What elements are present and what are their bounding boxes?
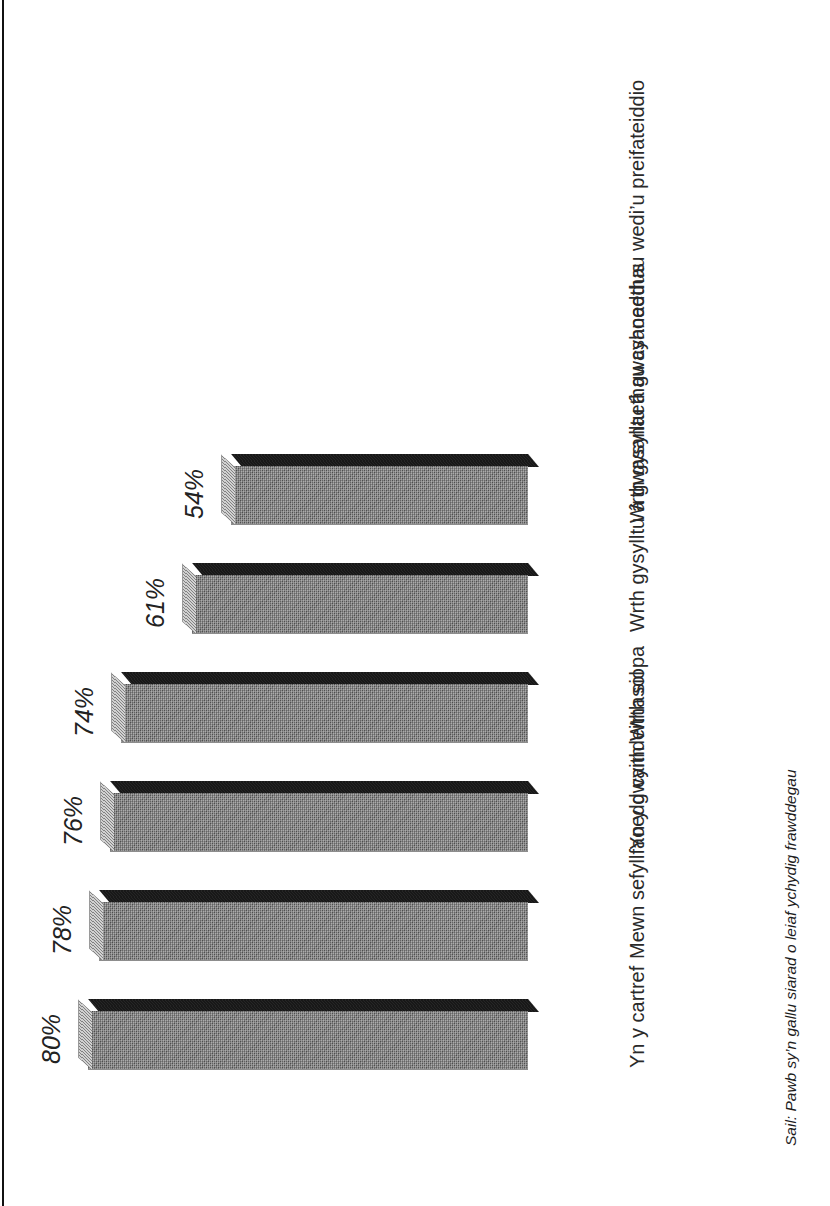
bar-front-face — [192, 575, 528, 634]
bar-top-face — [89, 890, 103, 961]
category-label: Yn y cartref — [626, 966, 649, 1068]
bar-front-face — [110, 793, 528, 852]
category-label: Wrth siopa — [626, 646, 649, 741]
bar-top-face — [111, 672, 125, 743]
bar-group — [110, 780, 528, 852]
bar — [110, 794, 528, 852]
bar-front-face — [121, 684, 528, 743]
bar-value-label: 78% — [48, 905, 77, 955]
bar-group — [192, 562, 528, 634]
bar-chart-plot-area: 80%Yn y cartref78%Mewn sefyllfaoedd cymd… — [0, 0, 830, 1206]
bar-group — [231, 453, 528, 525]
bar — [231, 467, 528, 525]
bar-group — [88, 998, 528, 1070]
bar-top-face — [182, 563, 196, 634]
bar-top-face — [78, 999, 92, 1070]
bar — [192, 576, 528, 634]
bar-top-face — [221, 454, 235, 525]
bar-front-face — [231, 466, 528, 525]
bar-value-label: 76% — [59, 796, 88, 846]
bar-front-face — [99, 902, 528, 961]
bar-group — [99, 889, 528, 961]
bar-value-label: 61% — [141, 578, 170, 628]
bar-value-label: 80% — [37, 1014, 66, 1064]
bar-front-face — [88, 1011, 528, 1070]
bar-value-label: 74% — [70, 687, 99, 737]
bar — [121, 685, 528, 743]
rotated-figure-canvas: 80%Yn y cartref78%Mewn sefyllfaoedd cymd… — [0, 0, 830, 1206]
chart-footnote: Sail: Pawb sy’n gallu siarad o leiaf ych… — [782, 769, 800, 1146]
category-label: Wrth gysylltu â gwasanaethau wedi’u prei… — [626, 80, 649, 523]
bar-top-face — [100, 781, 114, 852]
category-label: Yn y gwaith — [626, 747, 649, 850]
bar-group — [121, 671, 528, 743]
bar — [99, 903, 528, 961]
bar — [88, 1012, 528, 1070]
bar-value-label: 54% — [180, 469, 209, 519]
